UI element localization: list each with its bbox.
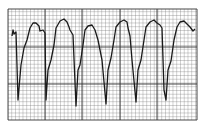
ecg-strip	[0, 0, 205, 131]
